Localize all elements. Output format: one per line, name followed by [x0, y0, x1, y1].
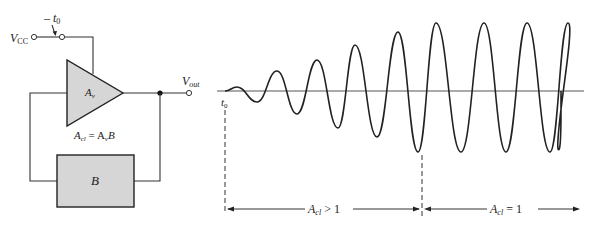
circuit: VCC – t0 Av Vout B Acl = AvB — [10, 11, 200, 207]
arrowhead-right-icon — [413, 207, 420, 212]
growth-region-label: Acl > 1 — [307, 202, 340, 217]
switch-terminal — [59, 34, 64, 39]
feedback-label: B — [91, 173, 99, 188]
oscillator-diagram: VCC – t0 Av Vout B Acl = AvB t0 — [0, 0, 593, 228]
vout-label: Vout — [182, 74, 200, 89]
steady-region-label: Acl = 1 — [489, 202, 522, 217]
amplifier-triangle — [67, 60, 123, 126]
gain-equation: Acl = AvB — [73, 129, 115, 143]
vcc-terminal — [31, 34, 36, 39]
switch-arrowhead-icon — [53, 31, 57, 36]
output-terminal — [186, 90, 191, 95]
vcc-label: VCC — [10, 31, 28, 46]
t0-label: t0 — [221, 96, 228, 110]
oscillation-waveform — [225, 23, 570, 152]
arrowhead-left-icon — [227, 207, 234, 212]
waveform-plot: t0 Acl > 1 Acl = 1 — [217, 23, 584, 217]
switch-label: – t0 — [43, 11, 60, 26]
feedback-wire-right — [134, 93, 160, 181]
arrowhead-right-icon — [573, 207, 580, 212]
